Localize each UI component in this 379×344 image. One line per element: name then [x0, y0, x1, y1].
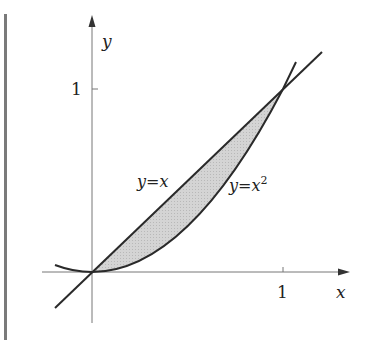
line-label: y=x	[136, 172, 168, 191]
y-tick-label: 1	[71, 79, 82, 99]
parabola-label-exponent: 2	[260, 174, 267, 187]
diagram-svg: y 1 1 x y=x y=x2	[0, 0, 379, 344]
y-axis-arrow-icon	[89, 15, 96, 27]
x-tick-label: 1	[277, 282, 288, 302]
y-axis	[89, 15, 99, 323]
diagram-canvas: y 1 1 x y=x y=x2	[0, 0, 379, 344]
parabola-y-equals-x-squared	[55, 62, 296, 272]
x-axis-arrow-icon	[338, 269, 350, 276]
parabola-label: y=x2	[228, 174, 267, 195]
parabola-label-base: y=x	[228, 176, 260, 195]
margin-bar	[4, 14, 7, 340]
x-axis-label: x	[336, 282, 346, 302]
y-axis-label: y	[101, 31, 112, 51]
